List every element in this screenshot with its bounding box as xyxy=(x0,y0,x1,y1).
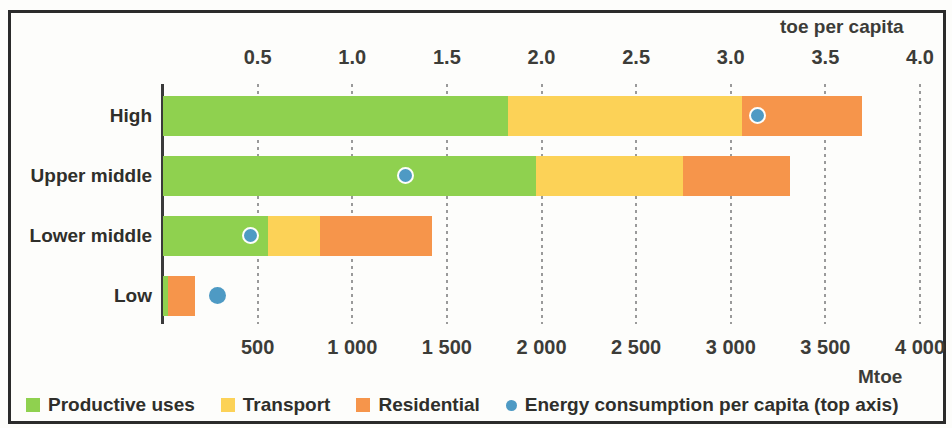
category-label: Upper middle xyxy=(2,165,152,187)
category-label: High xyxy=(2,105,152,127)
category-label: Lower middle xyxy=(2,225,152,247)
bottom-tick-label: 1 500 xyxy=(422,336,472,359)
plot-area: toe per capita Mtoe 0.51.01.52.02.53.03.… xyxy=(0,0,952,428)
bar-row: Low xyxy=(0,276,952,316)
top-tick-label: 2.5 xyxy=(622,46,650,69)
bar-segment xyxy=(268,216,320,256)
bottom-tick-label: 2 500 xyxy=(611,336,661,359)
legend-item[interactable]: Transport xyxy=(221,394,331,416)
category-label-wrap: Low xyxy=(0,276,152,316)
bar-row: Upper middle xyxy=(0,156,952,196)
bar-segment xyxy=(320,216,432,256)
category-label-wrap: High xyxy=(0,96,152,136)
legend-label: Residential xyxy=(378,394,479,416)
bottom-tick-label: 3 000 xyxy=(706,336,756,359)
top-tick-label: 3.0 xyxy=(717,46,745,69)
chart-figure: toe per capita Mtoe 0.51.01.52.02.53.03.… xyxy=(0,0,952,428)
legend-label: Productive uses xyxy=(48,394,195,416)
top-tick-label: 3.5 xyxy=(811,46,839,69)
bottom-tick-label: 4 000 xyxy=(895,336,945,359)
top-tick-label: 2.0 xyxy=(528,46,556,69)
legend-circle-icon xyxy=(506,400,517,411)
bottom-axis-title: Mtoe xyxy=(858,366,902,388)
top-tick-label: 0.5 xyxy=(244,46,272,69)
bar-row: High xyxy=(0,96,952,136)
per-capita-dot xyxy=(397,167,414,184)
legend-swatch-icon xyxy=(221,398,235,412)
top-tick-label: 4.0 xyxy=(906,46,934,69)
top-axis-title: toe per capita xyxy=(780,16,904,38)
legend-swatch-icon xyxy=(26,398,40,412)
bar-segment xyxy=(163,96,508,136)
category-label-wrap: Upper middle xyxy=(0,156,152,196)
category-label: Low xyxy=(2,285,152,307)
bar-segment xyxy=(508,96,742,136)
bar-segment xyxy=(168,276,195,316)
legend-label: Energy consumption per capita (top axis) xyxy=(525,394,899,416)
legend-item[interactable]: Productive uses xyxy=(26,394,195,416)
top-tick-label: 1.5 xyxy=(433,46,461,69)
legend-item[interactable]: Energy consumption per capita (top axis) xyxy=(506,394,899,416)
bar-segment xyxy=(163,156,536,196)
bar-row: Lower middle xyxy=(0,216,952,256)
bar-segment xyxy=(536,156,683,196)
bottom-tick-label: 1 000 xyxy=(327,336,377,359)
bottom-tick-label: 2 000 xyxy=(516,336,566,359)
chart-legend: Productive usesTransportResidentialEnerg… xyxy=(26,392,925,418)
per-capita-dot xyxy=(749,107,766,124)
legend-item[interactable]: Residential xyxy=(356,394,479,416)
legend-swatch-icon xyxy=(356,398,370,412)
top-tick-label: 1.0 xyxy=(338,46,366,69)
bottom-tick-label: 500 xyxy=(241,336,274,359)
bar-segment xyxy=(683,156,790,196)
category-label-wrap: Lower middle xyxy=(0,216,152,256)
legend-label: Transport xyxy=(243,394,331,416)
per-capita-dot xyxy=(209,287,226,304)
bottom-tick-label: 3 500 xyxy=(800,336,850,359)
per-capita-dot xyxy=(242,227,259,244)
